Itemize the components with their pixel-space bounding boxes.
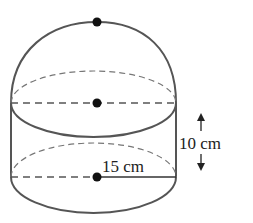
hemisphere-dome-outline — [11, 22, 176, 103]
lower-ellipse-back-dashed — [11, 143, 176, 177]
upper-ellipse-back-dashed — [11, 71, 176, 103]
hemisphere-top-dot — [93, 18, 102, 27]
upper-ellipse-front — [11, 103, 176, 137]
lower-ellipse-front — [11, 177, 176, 213]
height-arrow-up-icon — [197, 113, 205, 131]
height-label: 10 cm — [179, 134, 221, 153]
height-arrow-down-icon — [197, 154, 205, 171]
hemisphere-center-dot — [93, 99, 102, 108]
base-center-dot — [93, 173, 102, 182]
radius-label: 15 cm — [102, 157, 144, 176]
hemisphere-cylinder-diagram: 10 cm 15 cm — [0, 0, 253, 223]
